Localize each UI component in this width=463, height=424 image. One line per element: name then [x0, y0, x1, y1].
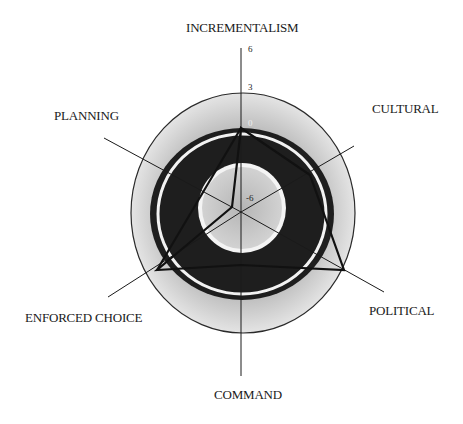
inner-disc	[202, 167, 282, 249]
tick-0: 0	[248, 118, 253, 128]
axis-label-command: COMMAND	[214, 387, 282, 403]
radar-chart	[0, 0, 463, 424]
tick-3: 3	[248, 82, 253, 92]
axis-label-political: POLITICAL	[369, 303, 434, 319]
axis-label-enforced-choice: ENFORCED CHOICE	[25, 310, 142, 326]
tick-minus-6: -6	[246, 193, 254, 203]
axis-label-cultural: CULTURAL	[372, 101, 439, 117]
tick-6: 6	[248, 44, 253, 54]
axis-label-planning: PLANNING	[54, 108, 119, 124]
axis-label-incrementalism: INCREMENTALISM	[186, 20, 298, 36]
